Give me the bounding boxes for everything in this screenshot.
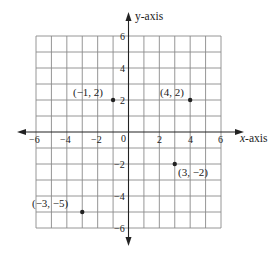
y-axis-down-arrow-icon — [126, 237, 132, 246]
svg-text:(−3, −5): (−3, −5) — [32, 197, 69, 210]
x-axis-left-arrow-icon — [17, 129, 26, 135]
point-neg1-2 — [111, 98, 115, 102]
x-tick-labels: −6 −4 −2 0 2 4 6 — [29, 133, 223, 145]
svg-text:−2: −2 — [114, 159, 125, 170]
svg-text:−6: −6 — [114, 223, 125, 234]
y-axis-up-arrow-icon — [126, 12, 132, 21]
point-4-2 — [188, 98, 192, 102]
svg-text:−4: −4 — [60, 134, 71, 145]
svg-text:0: 0 — [121, 133, 126, 144]
y-axis-label: y-axis — [135, 10, 164, 23]
point-neg3-neg5 — [80, 210, 84, 214]
svg-text:−4: −4 — [114, 191, 125, 202]
svg-text:(4, 2): (4, 2) — [160, 86, 184, 99]
svg-text:(3, −2): (3, −2) — [178, 166, 208, 179]
svg-text:−6: −6 — [29, 134, 40, 145]
data-points — [80, 98, 192, 214]
svg-text:2: 2 — [157, 134, 162, 145]
svg-text:4: 4 — [188, 134, 193, 145]
svg-text:6: 6 — [218, 134, 223, 145]
svg-text:−2: −2 — [91, 134, 102, 145]
svg-text:6: 6 — [120, 31, 125, 42]
svg-text:2: 2 — [120, 95, 125, 106]
coordinate-plane: y-axis x-axis −6 −4 −2 0 2 4 6 6 4 2 −2 … — [0, 0, 277, 256]
point-3-neg2 — [173, 162, 177, 166]
x-axis-label: x-axis — [239, 132, 268, 144]
svg-text:(−1, 2): (−1, 2) — [73, 86, 103, 99]
svg-text:4: 4 — [120, 63, 125, 74]
